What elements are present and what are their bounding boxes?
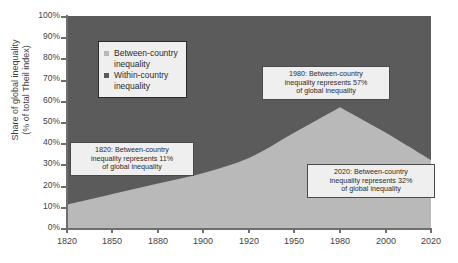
x-axis-tick	[339, 228, 341, 233]
y-axis-title-line-1: Share of global inequality	[10, 0, 21, 185]
legend-item-within-country[interactable]: Within-countryinequality	[104, 70, 178, 91]
legend-label-line-2: inequality	[114, 81, 150, 91]
x-axis-tick	[248, 228, 250, 233]
x-axis-tick	[111, 228, 113, 233]
chart-legend: Between-countryinequality Within-country…	[98, 41, 187, 98]
x-tick-label: 1950	[274, 236, 314, 246]
y-tick-label: 80%	[30, 53, 60, 62]
annotation-2020: 2020: Between-country inequality represe…	[307, 164, 435, 198]
y-tick-label: 90%	[30, 32, 60, 41]
x-tick-label: 1900	[183, 236, 223, 246]
x-tick-label: 1920	[229, 236, 269, 246]
y-tick-label: 100%	[30, 11, 60, 20]
y-tick-label: 60%	[30, 96, 60, 105]
y-tick-label: 50%	[30, 117, 60, 126]
x-tick-label: 1880	[138, 236, 178, 246]
y-axis-line	[66, 15, 68, 229]
annotation-line-3: of global inequality	[102, 162, 162, 171]
annotation-line-3: of global inequality	[341, 184, 401, 193]
legend-swatch-icon	[104, 51, 109, 56]
y-tick-label: 20%	[30, 181, 60, 190]
y-tick-label: 30%	[30, 159, 60, 168]
legend-label-line-1: Between-country	[114, 48, 178, 58]
legend-label-line-1: Within-country	[114, 70, 168, 80]
y-axis-tick-labels: 100% 90% 80% 70% 60% 50% 40% 30% 20% 10%…	[28, 0, 60, 263]
y-tick-label: 10%	[30, 202, 60, 211]
x-axis-tick	[66, 228, 68, 233]
x-tick-label: 2020	[411, 236, 451, 246]
legend-swatch-icon	[104, 73, 109, 78]
y-tick-label: 70%	[30, 74, 60, 83]
x-tick-label: 1820	[47, 236, 87, 246]
x-axis-tick	[293, 228, 295, 233]
legend-label: Between-countryinequality	[114, 48, 178, 69]
x-tick-label: 1850	[92, 236, 132, 246]
y-tick-label: 40%	[30, 138, 60, 147]
annotation-1980: 1980: Between-country inequality represe…	[262, 66, 390, 100]
legend-label: Within-countryinequality	[114, 70, 168, 91]
x-axis-tick	[202, 228, 204, 233]
y-tick-label: 0%	[30, 223, 60, 232]
annotation-line-3: of global inequality	[296, 86, 356, 95]
legend-item-between-country[interactable]: Between-countryinequality	[104, 48, 178, 69]
x-tick-label: 1980	[320, 236, 360, 246]
x-axis-tick	[430, 228, 432, 233]
legend-label-line-2: inequality	[114, 59, 150, 69]
x-axis-tick	[157, 228, 159, 233]
annotation-1820: 1820: Between-country inequality represe…	[70, 142, 194, 176]
x-tick-label: 2000	[366, 236, 406, 246]
inequality-area-chart: Share of global inequality (% of total T…	[0, 0, 458, 263]
x-axis-tick	[385, 228, 387, 233]
